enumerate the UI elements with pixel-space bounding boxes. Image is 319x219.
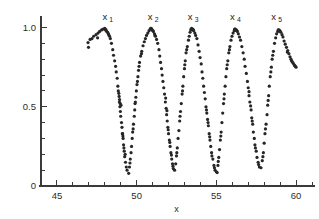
data-point: [87, 46, 90, 49]
x-tick-label: 55: [211, 190, 222, 201]
data-point: [208, 135, 211, 138]
data-point: [222, 102, 225, 105]
data-point: [113, 59, 116, 62]
data-point: [151, 29, 154, 32]
data-point: [143, 40, 146, 43]
data-point: [135, 83, 138, 86]
data-point: [279, 30, 282, 33]
peak-label-x3-text: x: [188, 11, 193, 22]
data-point: [186, 45, 189, 48]
y-tick-label: 1.0: [23, 22, 36, 33]
data-point: [221, 111, 224, 114]
data-point: [238, 35, 241, 38]
data-point: [243, 58, 246, 61]
data-point: [176, 137, 179, 140]
data-point: [228, 48, 231, 51]
data-points-layer: [86, 27, 297, 175]
data-point: [255, 150, 258, 153]
data-point: [206, 118, 209, 121]
data-point: [141, 44, 144, 47]
data-point: [132, 127, 135, 130]
data-point: [170, 157, 173, 160]
data-point: [247, 86, 250, 89]
data-point: [117, 92, 120, 95]
data-point: [115, 70, 118, 73]
data-point: [263, 132, 266, 135]
data-point: [121, 134, 124, 137]
data-point: [188, 35, 191, 38]
data-point: [125, 165, 128, 168]
peak-label-x4-subscript: 4: [237, 16, 241, 23]
data-point: [164, 100, 167, 103]
data-point: [162, 86, 165, 89]
data-point: [200, 70, 203, 73]
data-point: [250, 116, 253, 119]
data-point: [107, 32, 110, 35]
data-point: [134, 96, 137, 99]
data-point: [179, 110, 182, 113]
data-point: [119, 110, 122, 113]
x-tick-label: 50: [131, 190, 142, 201]
data-point: [217, 160, 220, 163]
plot-canvas: 00.51.045505560x x1x2x3x4x5: [0, 0, 319, 219]
data-point: [181, 85, 184, 88]
data-point: [243, 65, 246, 68]
peak-label-x1: x1: [102, 11, 113, 24]
peak-label-x2: x2: [148, 11, 159, 24]
scatter-plot-figure: 00.51.045505560x x1x2x3x4x5: [0, 0, 319, 219]
data-point: [175, 151, 178, 154]
data-point: [198, 56, 201, 59]
data-point: [247, 94, 250, 97]
data-point: [137, 65, 140, 68]
data-point: [205, 111, 208, 114]
data-point: [194, 34, 197, 37]
data-point: [257, 163, 260, 166]
data-point: [216, 171, 219, 174]
data-point: [116, 85, 119, 88]
data-point: [149, 27, 152, 30]
data-point: [134, 100, 137, 103]
data-point: [124, 161, 127, 164]
data-point: [270, 66, 273, 69]
data-point: [242, 51, 245, 54]
data-point: [274, 36, 277, 39]
data-point: [196, 43, 199, 46]
data-point: [156, 42, 159, 45]
data-point: [185, 48, 188, 51]
data-point: [224, 85, 227, 88]
data-point: [138, 61, 141, 64]
data-point: [261, 159, 264, 162]
data-point: [132, 123, 135, 126]
data-point: [208, 132, 211, 135]
y-tick-label: 0: [31, 180, 36, 191]
data-point: [253, 137, 256, 140]
data-point: [135, 89, 138, 92]
data-point: [240, 45, 243, 48]
data-point: [118, 98, 121, 101]
data-point: [267, 99, 270, 102]
data-point: [246, 80, 249, 83]
data-point: [164, 96, 167, 99]
data-point: [284, 43, 287, 46]
data-point: [220, 121, 223, 124]
data-point: [109, 37, 112, 40]
data-point: [133, 115, 136, 118]
data-point: [111, 48, 114, 51]
data-point: [114, 65, 117, 68]
data-point: [205, 108, 208, 111]
data-point: [176, 146, 179, 149]
data-point: [266, 104, 269, 107]
data-point: [207, 124, 210, 127]
data-point: [272, 50, 275, 53]
data-point: [127, 172, 130, 175]
data-point: [165, 109, 168, 112]
data-point: [252, 131, 255, 134]
data-point: [259, 166, 262, 169]
data-point: [249, 104, 252, 107]
data-point: [285, 46, 288, 49]
data-point: [250, 108, 253, 111]
data-point: [119, 104, 122, 107]
data-point: [206, 121, 209, 124]
data-point: [124, 153, 127, 156]
data-point: [201, 77, 204, 80]
